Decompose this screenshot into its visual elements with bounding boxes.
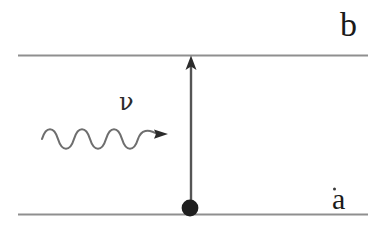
photon-arrow-head-icon — [154, 130, 168, 139]
electron-dot — [182, 200, 199, 217]
energy-level-diagram: b a ν — [0, 0, 383, 228]
lower-level-label: a — [332, 184, 345, 214]
diagram-canvas — [0, 0, 383, 228]
upper-level-label: b — [340, 8, 357, 42]
photon-frequency-label: ν — [119, 90, 134, 114]
photon-wave — [42, 129, 158, 149]
